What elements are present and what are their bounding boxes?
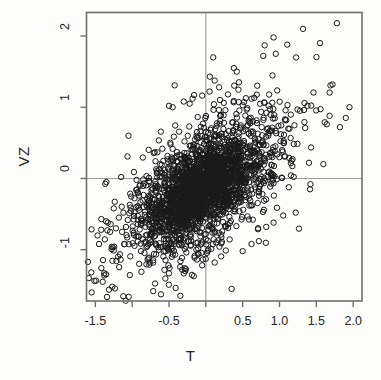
- x-tick-label: 2.0: [333, 314, 373, 328]
- y-tick-label: 2: [58, 23, 72, 47]
- x-tick-label: -1.5: [75, 314, 115, 328]
- scatter-plot-figure: T VZ -1.5-0.50.51.01.52.0 -1012: [0, 0, 381, 380]
- x-tick-label: -0.5: [149, 314, 189, 328]
- x-tick-label: 1.5: [296, 314, 336, 328]
- y-axis-title: VZ: [15, 142, 32, 172]
- y-tick-label: 1: [58, 94, 72, 118]
- y-tick-label: -1: [58, 237, 72, 261]
- data-points-layer: [85, 20, 352, 303]
- x-tick-label: 0.5: [223, 314, 263, 328]
- x-tick-label: 1.0: [259, 314, 299, 328]
- x-axis-title: T: [0, 347, 381, 364]
- y-tick-label: 0: [58, 165, 72, 189]
